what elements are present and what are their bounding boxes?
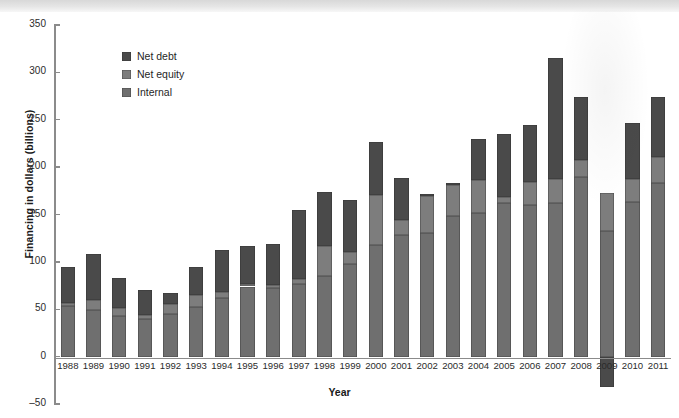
bar-segment-net-debt xyxy=(189,267,204,295)
bar-segment-internal xyxy=(189,307,204,356)
y-axis-tick-label: 150 xyxy=(14,208,46,219)
bar-segment-net-debt xyxy=(163,293,178,303)
bar-segment-net-debt xyxy=(343,200,358,252)
legend-swatch-icon xyxy=(122,52,131,61)
y-axis-tick-label: 250 xyxy=(14,113,46,124)
stacked-bar-chart: Financing in dollars (billions) ‒5005010… xyxy=(0,0,679,418)
bar-group[interactable] xyxy=(497,25,512,404)
legend-item-label: Net equity xyxy=(137,68,184,80)
bar-segment-net-equity xyxy=(548,179,563,203)
bar-segment-internal xyxy=(317,276,332,357)
bar-segment-net-debt xyxy=(369,142,384,195)
bar-segment-net-equity xyxy=(317,246,332,276)
y-axis-tick-label: 0 xyxy=(14,350,46,361)
bar-group[interactable] xyxy=(86,25,101,404)
bar-segment-net-debt xyxy=(394,178,409,220)
bar-segment-internal xyxy=(471,213,486,357)
bar-segment-internal xyxy=(651,183,666,356)
bar-segment-internal xyxy=(266,288,281,356)
bar-segment-net-equity xyxy=(343,252,358,263)
bar-group[interactable] xyxy=(240,25,255,404)
bar-group[interactable] xyxy=(369,25,384,404)
legend-item: Net equity xyxy=(122,66,184,82)
bar-group[interactable] xyxy=(292,25,307,404)
bar-segment-net-debt xyxy=(446,183,461,185)
bar-segment-net-debt xyxy=(292,210,307,279)
bar-group[interactable] xyxy=(266,25,281,404)
bar-segment-internal xyxy=(61,306,76,356)
bar-segment-net-equity xyxy=(112,308,127,316)
y-axis-tick-label: 100 xyxy=(14,255,46,266)
y-axis-tick-label: 350 xyxy=(14,18,46,29)
bar-segment-net-debt xyxy=(86,254,101,299)
legend-item-label: Internal xyxy=(137,86,172,98)
bar-segment-net-equity xyxy=(625,179,640,202)
bar-group[interactable] xyxy=(420,25,435,404)
bar-segment-net-equity xyxy=(189,295,204,307)
bar-group[interactable] xyxy=(651,25,666,404)
bar-segment-internal xyxy=(343,264,358,357)
bar-segment-net-equity xyxy=(497,197,512,203)
bar-segment-net-equity xyxy=(394,220,409,235)
bar-segment-net-equity xyxy=(600,193,615,231)
bar-segment-internal xyxy=(369,245,384,357)
bar-segment-net-debt xyxy=(548,58,563,179)
y-axis-tick-label: ‒50 xyxy=(14,397,46,408)
bar-group[interactable] xyxy=(394,25,409,404)
bar-segment-net-debt xyxy=(112,278,127,308)
bar-segment-net-debt xyxy=(266,244,281,285)
y-axis-tick-label: 50 xyxy=(14,302,46,313)
bar-segment-internal xyxy=(574,177,589,357)
bar-segment-internal xyxy=(420,233,435,356)
bar-group[interactable] xyxy=(61,25,76,404)
legend-item: Internal xyxy=(122,84,184,100)
bar-segment-internal xyxy=(86,310,101,356)
bar-segment-net-equity xyxy=(420,196,435,234)
bar-segment-net-equity xyxy=(471,180,486,212)
bar-segment-internal xyxy=(163,314,178,357)
bar-segment-net-debt xyxy=(240,246,255,284)
bar-group[interactable] xyxy=(574,25,589,404)
bar-segment-net-debt xyxy=(138,290,153,315)
bar-segment-net-equity xyxy=(86,300,101,310)
bar-segment-net-debt xyxy=(497,134,512,197)
bar-segment-net-debt xyxy=(471,139,486,181)
bar-segment-internal xyxy=(446,216,461,356)
bar-segment-internal xyxy=(138,319,153,357)
bar-segment-internal xyxy=(394,235,409,356)
bar-segment-net-equity xyxy=(446,185,461,216)
bar-group[interactable] xyxy=(471,25,486,404)
bar-segment-net-debt xyxy=(215,250,230,293)
bar-group[interactable] xyxy=(215,25,230,404)
x-axis-tick-label: 2011 xyxy=(642,360,674,371)
bar-group[interactable] xyxy=(446,25,461,404)
bar-segment-net-debt xyxy=(420,194,435,196)
bar-segment-net-equity xyxy=(523,182,538,205)
chart-legend: Net debtNet equityInternal xyxy=(122,48,184,102)
bar-group[interactable] xyxy=(548,25,563,404)
bar-segment-internal xyxy=(548,203,563,356)
bar-segment-net-debt xyxy=(625,123,640,180)
bar-segment-internal xyxy=(497,203,512,356)
bar-segment-internal xyxy=(600,231,615,357)
bar-segment-net-debt xyxy=(651,97,666,157)
bar-segment-internal xyxy=(112,316,127,357)
bar-segment-net-debt xyxy=(61,267,76,303)
x-axis-title: Year xyxy=(0,386,679,398)
bar-segment-net-debt xyxy=(317,192,332,246)
bar-group[interactable] xyxy=(523,25,538,404)
bar-segment-net-equity xyxy=(574,160,589,176)
bar-segment-net-equity xyxy=(61,303,76,307)
bar-segment-internal xyxy=(215,298,230,357)
bar-segment-net-equity xyxy=(240,284,255,287)
bar-group[interactable] xyxy=(317,25,332,404)
bar-group[interactable] xyxy=(625,25,640,404)
bar-segment-net-debt xyxy=(523,125,538,182)
bar-group[interactable] xyxy=(189,25,204,404)
bar-segment-net-equity xyxy=(138,315,153,319)
bar-group[interactable] xyxy=(343,25,358,404)
legend-item: Net debt xyxy=(122,48,184,64)
bar-segment-internal xyxy=(292,284,307,357)
bar-group[interactable] xyxy=(600,25,615,404)
bar-segment-net-equity xyxy=(292,279,307,284)
